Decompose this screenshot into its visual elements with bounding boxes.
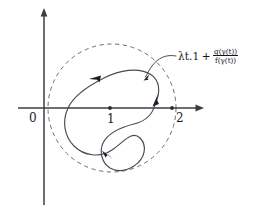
plus-sign: + xyxy=(202,51,211,62)
fraction: g(γ(t)) f(γ(t)) xyxy=(213,47,238,65)
tick-label-2: 2 xyxy=(176,112,184,124)
tick-label-1: 1 xyxy=(107,113,115,125)
orbit-arrowhead-upper-left xyxy=(89,76,101,83)
tick-dot-1 xyxy=(108,106,112,110)
lambda-term: λt.1 xyxy=(178,51,199,62)
fraction-denominator: f(γ(t)) xyxy=(214,56,237,64)
orbit-formula-annotation: λt.1 + g(γ(t)) f(γ(t)) xyxy=(178,47,238,65)
orbit-arrowhead-lower xyxy=(102,151,113,160)
fraction-numerator: g(γ(t)) xyxy=(213,47,238,55)
tick-dot-2 xyxy=(170,106,174,110)
figure-canvas: 0 1 2 λt.1 + g(γ(t)) f(γ(t)) xyxy=(0,0,256,219)
diagram-svg xyxy=(0,0,256,219)
horizontal-axis-arrowhead xyxy=(196,105,205,112)
tick-label-0: 0 xyxy=(29,112,37,124)
vertical-axis-arrowhead xyxy=(41,8,48,17)
